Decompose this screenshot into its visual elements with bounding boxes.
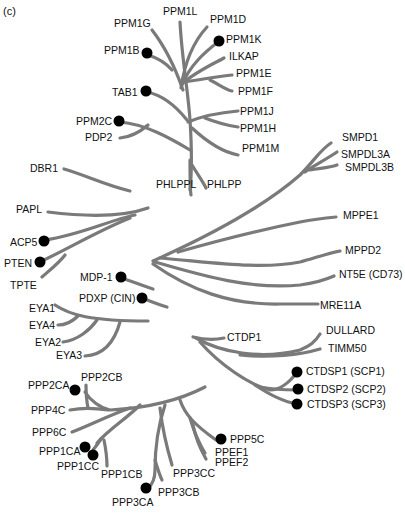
leaf-EYA1: EYA1 (29, 302, 55, 314)
leaf-PPM1H: PPM1H (240, 122, 276, 134)
leaf-PPM1G: PPM1G (114, 17, 151, 29)
leaf-EYA3: EYA3 (56, 349, 82, 361)
pap-cluster-branches (35, 208, 149, 277)
leaf-PHLPPL: PHLPPL (156, 178, 196, 190)
leaf-PPM1K: PPM1K (226, 33, 262, 45)
leaf-PPP4C: PPP4C (31, 404, 66, 416)
panel-label: (c) (3, 5, 16, 17)
leaf-PPP5C: PPP5C (230, 433, 265, 445)
leaf-PPM1B: PPM1B (104, 44, 140, 56)
leaf-PPP1CB: PPP1CB (101, 468, 142, 480)
leaf-DULLARD: DULLARD (326, 324, 375, 336)
leaf-PPP3CC: PPP3CC (173, 467, 215, 479)
leaf-EYA2: EYA2 (35, 336, 61, 348)
leaf-ACP5: ACP5 (10, 236, 38, 248)
leaf-PPM2C: PPM2C (76, 115, 113, 127)
dbr1-branch (64, 169, 130, 191)
leaf-NT5E: NT5E (CD73) (339, 268, 403, 280)
leaf-PPM1M: PPM1M (242, 142, 279, 154)
leaf-CTDSP3: CTDSP3 (SCP3) (307, 398, 386, 410)
leaf-PPP3CA: PPP3CA (112, 496, 153, 508)
leaf-PPEF2: PPEF2 (215, 456, 248, 468)
leaf-PPP1CA: PPP1CA (39, 445, 80, 457)
leaf-EYA4: EYA4 (29, 319, 55, 331)
leaf-PPM1D: PPM1D (210, 13, 247, 25)
leaf-PPP1CC: PPP1CC (57, 460, 99, 472)
phylogenetic-tree-figure: (c) PPM1L PPM1G PPM1D PPM1K PPM1B ILKAP … (0, 0, 405, 515)
leaf-TAB1: TAB1 (112, 86, 138, 98)
leaf-PPP6C: PPP6C (32, 426, 67, 438)
fcp-cluster-branches (193, 334, 320, 410)
leaf-MPPE1: MPPE1 (343, 209, 379, 221)
leaf-DBR1: DBR1 (30, 162, 58, 174)
leaf-MPPD2: MPPD2 (345, 244, 381, 256)
leaf-PPM1J: PPM1J (240, 105, 274, 117)
leaf-CTDP1: CTDP1 (227, 331, 262, 343)
leaf-PHLPP: PHLPP (207, 178, 241, 190)
leaf-CTDSP1: CTDSP1 (SCP1) (306, 365, 385, 377)
leaf-SMPDL3B: SMPDL3B (345, 161, 394, 173)
leaf-PPM1L: PPM1L (163, 5, 198, 17)
leaf-MRE11A: MRE11A (320, 299, 361, 311)
leaf-PPP2CB: PPP2CB (81, 371, 122, 383)
leaf-SMPDL3A: SMPDL3A (341, 148, 390, 160)
leaf-PDP2: PDP2 (85, 131, 113, 143)
tree-svg: (c) PPM1L PPM1G PPM1D PPM1K PPM1B ILKAP … (0, 0, 405, 515)
leaf-TPTE: TPTE (10, 279, 37, 291)
mpp-cluster-branches (153, 143, 340, 304)
leaf-CTDSP2: CTDSP2 (SCP2) (307, 383, 386, 395)
leaf-PPP2CA: PPP2CA (28, 379, 69, 391)
leaf-PDXP: PDXP (CIN) (79, 292, 135, 304)
leaf-PAPL: PAPL (16, 203, 42, 215)
leaf-PTEN: PTEN (4, 257, 32, 269)
leaf-SMPD1: SMPD1 (342, 131, 378, 143)
leaf-PPP3CB: PPP3CB (158, 486, 199, 498)
leaf-PPM1F: PPM1F (238, 85, 273, 97)
leaf-PPM1E: PPM1E (236, 67, 272, 79)
leaf-ILKAP: ILKAP (229, 50, 259, 62)
leaf-TIMM50: TIMM50 (328, 342, 367, 354)
leaf-MDP-1: MDP-1 (80, 271, 113, 283)
